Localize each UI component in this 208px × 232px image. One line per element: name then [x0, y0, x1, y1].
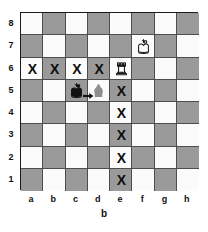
- x-marker-e1: X: [110, 169, 132, 191]
- square-a7[interactable]: [21, 35, 43, 57]
- square-f5[interactable]: [132, 80, 154, 102]
- square-d7[interactable]: [88, 35, 110, 57]
- file-label-c: c: [65, 194, 87, 204]
- square-a5[interactable]: [21, 80, 43, 102]
- square-g3[interactable]: [155, 124, 177, 146]
- square-e7[interactable]: [110, 35, 132, 57]
- square-e8[interactable]: [110, 13, 132, 35]
- x-marker-b6: X: [43, 58, 65, 80]
- square-d4[interactable]: [88, 102, 110, 124]
- square-g6[interactable]: [155, 58, 177, 80]
- square-d2[interactable]: [88, 147, 110, 169]
- square-a4[interactable]: [21, 102, 43, 124]
- x-marker-e4: X: [110, 102, 132, 124]
- rank-label-8: 8: [4, 18, 18, 28]
- rank-label-4: 4: [4, 107, 18, 117]
- rank-label-5: 5: [4, 85, 18, 95]
- square-d3[interactable]: [88, 124, 110, 146]
- square-c2[interactable]: [66, 147, 88, 169]
- square-f6[interactable]: [132, 58, 154, 80]
- file-label-f: f: [131, 194, 153, 204]
- square-b8[interactable]: [43, 13, 65, 35]
- square-g7[interactable]: [155, 35, 177, 57]
- x-marker-d6: X: [88, 58, 110, 80]
- square-a2[interactable]: [21, 147, 43, 169]
- x-marker-e3: X: [110, 124, 132, 146]
- chessboard[interactable]: XXXXXXXXX: [20, 12, 198, 190]
- rank-label-3: 3: [4, 129, 18, 139]
- white-rook-e6[interactable]: [110, 58, 132, 80]
- square-f2[interactable]: [132, 147, 154, 169]
- square-a8[interactable]: [21, 13, 43, 35]
- square-b1[interactable]: [43, 169, 65, 191]
- file-label-b: b: [42, 194, 64, 204]
- x-marker-e5: X: [110, 80, 132, 102]
- file-label-e: e: [109, 194, 131, 204]
- square-h8[interactable]: [177, 13, 199, 35]
- square-c3[interactable]: [66, 124, 88, 146]
- square-b3[interactable]: [43, 124, 65, 146]
- square-b5[interactable]: [43, 80, 65, 102]
- square-h5[interactable]: [177, 80, 199, 102]
- square-h3[interactable]: [177, 124, 199, 146]
- square-g1[interactable]: [155, 169, 177, 191]
- square-c8[interactable]: [66, 13, 88, 35]
- square-h1[interactable]: [177, 169, 199, 191]
- chess-diagram: 87654321 XXXXXXXXX abcdefgh b: [0, 0, 208, 232]
- file-label-g: g: [154, 194, 176, 204]
- square-f4[interactable]: [132, 102, 154, 124]
- file-label-d: d: [87, 194, 109, 204]
- x-marker-c6: X: [66, 58, 88, 80]
- square-h7[interactable]: [177, 35, 199, 57]
- file-label-h: h: [176, 194, 198, 204]
- square-b2[interactable]: [43, 147, 65, 169]
- square-h4[interactable]: [177, 102, 199, 124]
- square-d1[interactable]: [88, 169, 110, 191]
- white-king-f7[interactable]: [132, 35, 154, 57]
- square-c7[interactable]: [66, 35, 88, 57]
- square-a1[interactable]: [21, 169, 43, 191]
- square-d8[interactable]: [88, 13, 110, 35]
- square-g5[interactable]: [155, 80, 177, 102]
- square-h6[interactable]: [177, 58, 199, 80]
- square-g8[interactable]: [155, 13, 177, 35]
- square-g2[interactable]: [155, 147, 177, 169]
- square-f1[interactable]: [132, 169, 154, 191]
- file-label-a: a: [20, 194, 42, 204]
- rank-label-1: 1: [4, 174, 18, 184]
- square-f3[interactable]: [132, 124, 154, 146]
- square-g4[interactable]: [155, 102, 177, 124]
- square-h2[interactable]: [177, 147, 199, 169]
- black-king-c5[interactable]: [66, 80, 88, 102]
- diagram-caption: b: [0, 208, 208, 219]
- rank-label-6: 6: [4, 63, 18, 73]
- square-b4[interactable]: [43, 102, 65, 124]
- square-c4[interactable]: [66, 102, 88, 124]
- square-a3[interactable]: [21, 124, 43, 146]
- rank-label-7: 7: [4, 40, 18, 50]
- rank-label-2: 2: [4, 152, 18, 162]
- ghost-piece-d5: [88, 80, 110, 102]
- x-marker-e2: X: [110, 147, 132, 169]
- x-marker-a6: X: [21, 58, 43, 80]
- square-b7[interactable]: [43, 35, 65, 57]
- square-f8[interactable]: [132, 13, 154, 35]
- square-c1[interactable]: [66, 169, 88, 191]
